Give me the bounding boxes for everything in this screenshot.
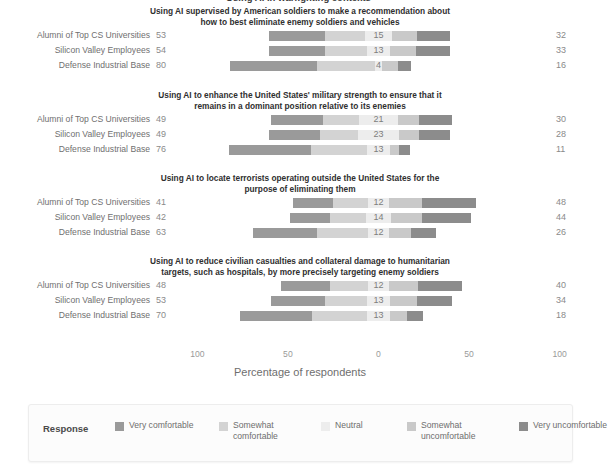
- neutral-value-label: 15: [359, 28, 399, 43]
- bar-row: Defense Industrial Base761113: [0, 142, 597, 157]
- legend: Response Very comfortableSomewhat comfor…: [28, 404, 573, 462]
- bar-track: 4: [0, 58, 597, 73]
- bar-segment-very-uncomfortable: [411, 228, 436, 238]
- neutral-value-label: 13: [359, 293, 399, 308]
- bar-segment-somewhat-uncomfortable: [398, 115, 420, 125]
- axis-tick: 50: [449, 349, 489, 359]
- x-axis-title: Percentage of respondents: [150, 366, 450, 378]
- panel-rows: Alumni of Top CS Universities533215Silic…: [0, 28, 597, 73]
- bar-segment-somewhat-comfortable: [320, 130, 358, 140]
- axis-tick: 50: [268, 349, 308, 359]
- bar-track: 15: [0, 28, 597, 43]
- bar-track: 12: [0, 195, 597, 210]
- legend-swatch-icon: [407, 422, 416, 431]
- bar-segment-very-comfortable: [229, 145, 311, 155]
- axis-tick: 100: [540, 349, 580, 359]
- neutral-value-label: 12: [359, 195, 399, 210]
- bar-track: 12: [0, 278, 597, 293]
- bar-track: 12: [0, 225, 597, 240]
- bar-segment-somewhat-comfortable: [323, 115, 359, 125]
- panel-title: Using AI to locate terrorists operating …: [150, 173, 450, 194]
- bar-track: 13: [0, 308, 597, 323]
- bar-row: Alumni of Top CS Universities493021: [0, 112, 597, 127]
- bar-row: Defense Industrial Base701813: [0, 308, 597, 323]
- legend-title: Response: [43, 423, 88, 434]
- bar-segment-very-comfortable: [269, 46, 325, 56]
- neutral-value-label: 13: [359, 43, 399, 58]
- bar-segment-very-comfortable: [253, 228, 316, 238]
- bar-segment-very-uncomfortable: [416, 46, 450, 56]
- neutral-value-label: 12: [359, 278, 399, 293]
- bar-track: 14: [0, 210, 597, 225]
- bar-segment-very-comfortable: [271, 296, 325, 306]
- bar-row: Silicon Valley Employees533413: [0, 293, 597, 308]
- bar-segment-very-uncomfortable: [398, 61, 411, 71]
- bar-row: Defense Industrial Base80164: [0, 58, 597, 73]
- panel-rows: Alumni of Top CS Universities414812Silic…: [0, 195, 597, 240]
- bar-segment-very-comfortable: [293, 198, 333, 208]
- bar-segment-very-uncomfortable: [419, 130, 450, 140]
- legend-label: Very uncomfortable: [533, 420, 612, 431]
- bar-segment-very-uncomfortable: [422, 198, 476, 208]
- bar-segment-very-comfortable: [281, 281, 330, 291]
- bar-track: 13: [0, 43, 597, 58]
- neutral-value-label: 13: [359, 308, 399, 323]
- neutral-value-label: 23: [359, 127, 399, 142]
- legend-label: Somewhat comfortable: [233, 420, 319, 441]
- legend-swatch-icon: [219, 422, 228, 431]
- bar-segment-somewhat-uncomfortable: [399, 130, 419, 140]
- bar-segment-very-uncomfortable: [417, 296, 451, 306]
- neutral-value-label: 14: [359, 210, 399, 225]
- neutral-value-label: 4: [359, 58, 399, 73]
- neutral-value-label: 12: [359, 225, 399, 240]
- clipped-chart-title-text: Using AI in warfighting contexts: [0, 0, 597, 3]
- bar-segment-very-uncomfortable: [407, 311, 423, 321]
- bar-segment-very-uncomfortable: [417, 31, 450, 41]
- bar-segment-very-comfortable: [290, 213, 330, 223]
- bar-track: 13: [0, 142, 597, 157]
- bar-row: Silicon Valley Employees424414: [0, 210, 597, 225]
- panel-title: Using AI to enhance the United States' m…: [150, 90, 450, 111]
- panel-rows: Alumni of Top CS Universities484012Silic…: [0, 278, 597, 323]
- bar-row: Silicon Valley Employees492823: [0, 127, 597, 142]
- bar-segment-very-comfortable: [240, 311, 312, 321]
- bar-segment-very-uncomfortable: [422, 213, 471, 223]
- bar-segment-very-comfortable: [230, 61, 317, 71]
- legend-swatch-icon: [321, 422, 330, 431]
- legend-label: Very comfortable: [129, 420, 215, 431]
- neutral-value-label: 21: [359, 112, 399, 127]
- legend-swatch-icon: [115, 422, 124, 431]
- bar-segment-very-comfortable: [269, 31, 325, 41]
- bar-segment-very-uncomfortable: [419, 115, 452, 125]
- bar-row: Silicon Valley Employees543313: [0, 43, 597, 58]
- axis-tick: 0: [359, 349, 399, 359]
- legend-label: Somewhat uncomfortable: [421, 420, 507, 441]
- panel-title: Using AI to reduce civilian casualties a…: [150, 256, 450, 277]
- panel-title: Using AI supervised by American soldiers…: [150, 6, 450, 27]
- legend-swatch-icon: [519, 422, 528, 431]
- neutral-value-label: 13: [359, 142, 399, 157]
- bar-track: 13: [0, 293, 597, 308]
- bar-row: Defense Industrial Base632612: [0, 225, 597, 240]
- panel-rows: Alumni of Top CS Universities493021Silic…: [0, 112, 597, 157]
- bar-track: 23: [0, 127, 597, 142]
- bar-segment-very-comfortable: [271, 115, 324, 125]
- axis-tick: 100: [177, 349, 217, 359]
- bar-row: Alumni of Top CS Universities484012: [0, 278, 597, 293]
- bar-track: 21: [0, 112, 597, 127]
- bar-row: Alumni of Top CS Universities533215: [0, 28, 597, 43]
- bar-row: Alumni of Top CS Universities414812: [0, 195, 597, 210]
- x-axis: 10050050100: [0, 349, 597, 365]
- bar-segment-very-uncomfortable: [399, 145, 410, 155]
- bar-segment-very-comfortable: [269, 130, 320, 140]
- bar-segment-very-uncomfortable: [418, 281, 461, 291]
